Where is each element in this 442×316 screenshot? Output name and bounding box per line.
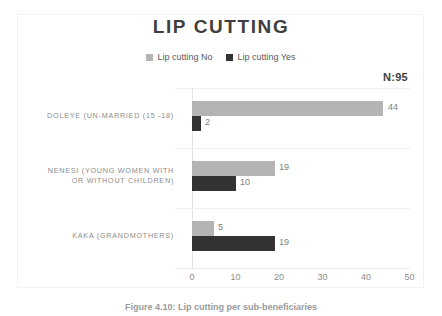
x-tick-label: 40 (361, 272, 371, 282)
category-label-line: KAKA (GRANDMOTHERS) (16, 231, 174, 241)
bar-value-no-doleye: 44 (388, 102, 398, 112)
x-tick-label: 30 (317, 272, 327, 282)
bar-value-no-kaka: 5 (218, 222, 223, 232)
x-tick-label: 0 (189, 272, 194, 282)
plot-bottom-rule (175, 268, 410, 269)
category-label-line: NENESI (YOUNG WOMEN WITH (16, 166, 174, 176)
bar-value-no-nenesi: 19 (279, 162, 289, 172)
x-tick-label: 10 (230, 272, 240, 282)
x-tick-label: 50 (404, 272, 414, 282)
legend-swatch-no (146, 54, 153, 61)
chart-group-kaka: KAKA (GRANDMOTHERS) 5 19 (0, 208, 442, 268)
x-tick-label: 20 (274, 272, 284, 282)
bar-yes-kaka[interactable] (192, 236, 275, 251)
category-label-line: OR WITHOUT CHILDREN) (16, 176, 174, 186)
legend-swatch-yes (226, 54, 233, 61)
chart-group-nenesi: NENESI (YOUNG WOMEN WITH OR WITHOUT CHIL… (0, 148, 442, 208)
bar-no-kaka[interactable] (192, 221, 214, 236)
chart-group-doleye: DOLEYE (UN-MARRIED (15 -18) 44 2 (0, 88, 442, 148)
legend-label-yes: Lip cutting Yes (237, 52, 295, 62)
bar-value-yes-doleye: 2 (205, 117, 210, 127)
bar-no-doleye[interactable] (192, 101, 383, 116)
chart-title: LIP CUTTING (0, 16, 442, 38)
category-label-nenesi: NENESI (YOUNG WOMEN WITH OR WITHOUT CHIL… (16, 166, 174, 186)
x-axis: 0 10 20 30 40 50 (192, 272, 410, 286)
figure-caption: Figure 4.10: Lip cutting per sub-benefic… (0, 302, 442, 312)
legend-label-no: Lip cutting No (157, 52, 212, 62)
bar-value-yes-kaka: 19 (279, 237, 289, 247)
sample-size-annotation: N:95 (383, 71, 408, 83)
chart-legend: Lip cutting No Lip cutting Yes (0, 52, 442, 62)
legend-entry-yes[interactable]: Lip cutting Yes (226, 52, 295, 62)
legend-entry-no[interactable]: Lip cutting No (146, 52, 212, 62)
bar-value-yes-nenesi: 10 (240, 177, 250, 187)
category-label-kaka: KAKA (GRANDMOTHERS) (16, 231, 174, 241)
category-label-line: DOLEYE (UN-MARRIED (15 -18) (16, 111, 174, 121)
bar-yes-nenesi[interactable] (192, 176, 236, 191)
category-label-doleye: DOLEYE (UN-MARRIED (15 -18) (16, 111, 174, 121)
bar-no-nenesi[interactable] (192, 161, 275, 176)
bar-yes-doleye[interactable] (192, 116, 201, 131)
